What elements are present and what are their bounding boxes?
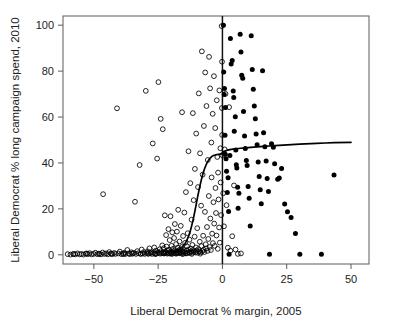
data-point	[227, 153, 232, 158]
x-tick-label: −25	[149, 273, 168, 285]
data-point	[233, 114, 238, 119]
data-point	[214, 211, 219, 216]
data-point	[224, 203, 229, 208]
x-axis-tick-labels: −50−2502550	[85, 273, 358, 285]
data-point	[158, 116, 163, 121]
data-point	[251, 87, 256, 92]
data-point	[266, 189, 271, 194]
data-point	[137, 163, 142, 168]
data-point	[201, 233, 206, 238]
series-open-circles	[65, 24, 243, 257]
data-point	[245, 163, 250, 168]
data-point	[206, 237, 211, 242]
series-filled-circles	[221, 23, 337, 257]
data-point	[172, 236, 177, 241]
data-point	[202, 124, 207, 129]
data-point	[213, 126, 218, 131]
data-point	[206, 194, 211, 199]
data-point	[247, 196, 252, 201]
data-point	[217, 88, 222, 93]
data-point	[217, 240, 222, 245]
y-axis-title: Liberal Democrat % long campaign spend, …	[9, 17, 21, 262]
x-axis-title: Liberal Democrat % margin, 2005	[130, 305, 301, 317]
data-point	[238, 50, 243, 55]
data-point	[256, 160, 261, 165]
data-point	[168, 214, 173, 219]
data-point	[246, 184, 251, 189]
data-point	[101, 192, 106, 197]
data-point	[221, 23, 226, 28]
data-point	[248, 224, 253, 229]
data-point	[221, 70, 226, 75]
x-tick-label: 25	[281, 273, 293, 285]
data-point	[257, 174, 262, 179]
data-point	[178, 223, 183, 228]
data-point	[226, 175, 231, 180]
data-point	[214, 98, 219, 103]
data-point	[180, 110, 185, 115]
data-point	[226, 209, 231, 214]
figure-container: −50−2502550 020406080100 Liberal Democra…	[0, 0, 403, 331]
data-point	[239, 251, 244, 256]
data-point	[176, 207, 181, 212]
data-point	[160, 127, 165, 132]
data-point	[216, 170, 221, 175]
data-point	[222, 86, 227, 91]
data-point	[240, 76, 245, 81]
data-point	[277, 176, 282, 181]
data-point	[244, 158, 249, 163]
y-tick-label: 80	[42, 65, 54, 77]
data-point	[234, 166, 239, 171]
data-point	[221, 191, 226, 196]
data-point	[253, 116, 258, 121]
data-point	[209, 140, 214, 145]
data-point	[170, 230, 175, 235]
data-point	[205, 225, 210, 230]
data-point	[209, 175, 214, 180]
y-axis-ticks	[58, 25, 63, 255]
data-point	[332, 172, 337, 177]
data-point	[319, 252, 324, 257]
data-point	[191, 198, 196, 203]
x-tick-label: −50	[85, 273, 104, 285]
data-point	[235, 185, 240, 190]
data-point	[211, 200, 216, 205]
data-point	[236, 206, 241, 211]
data-point	[213, 186, 218, 191]
data-point	[258, 187, 263, 192]
data-point	[289, 215, 294, 220]
data-point	[172, 222, 177, 227]
y-tick-label: 0	[48, 249, 54, 261]
data-point	[261, 130, 266, 135]
data-point	[282, 202, 287, 207]
data-point	[285, 209, 290, 214]
data-point	[196, 91, 201, 96]
data-point	[195, 226, 200, 231]
data-point	[182, 210, 187, 215]
data-point	[150, 141, 155, 146]
y-axis-tick-labels: 020406080100	[36, 19, 54, 261]
data-point	[224, 169, 229, 174]
data-point	[293, 231, 298, 236]
data-point	[249, 33, 254, 38]
data-point	[175, 229, 180, 234]
data-point	[215, 246, 220, 251]
data-point	[177, 239, 182, 244]
data-point	[231, 89, 236, 94]
y-tick-label: 40	[42, 157, 54, 169]
data-point	[241, 109, 246, 114]
data-point	[297, 252, 302, 257]
data-point	[212, 221, 217, 226]
scatter-plot: −50−2502550 020406080100 Liberal Democra…	[0, 0, 403, 331]
data-point	[272, 161, 277, 166]
data-point	[143, 88, 148, 93]
data-point	[242, 134, 247, 139]
data-point	[192, 234, 197, 239]
data-point	[193, 167, 198, 172]
data-point	[231, 95, 236, 100]
data-point	[199, 203, 204, 208]
data-point	[190, 111, 195, 116]
data-point	[181, 234, 186, 239]
data-point	[222, 92, 227, 97]
x-axis-ticks	[94, 264, 351, 269]
